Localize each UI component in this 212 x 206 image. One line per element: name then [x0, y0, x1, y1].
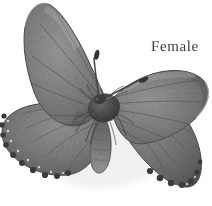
sex-label: Female [151, 39, 199, 56]
specimen-illustration [0, 0, 212, 206]
butterfly-plate: Female [0, 0, 212, 206]
halftone-grain [0, 0, 212, 206]
butterfly-specimen [0, 0, 212, 206]
